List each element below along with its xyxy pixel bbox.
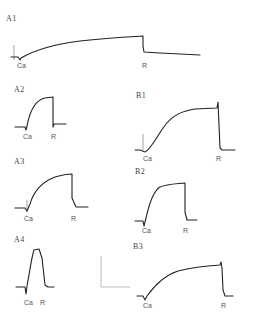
trace-a3 bbox=[15, 174, 88, 212]
marker-ca-a1: Ca bbox=[17, 62, 26, 69]
marker-r-a1: R bbox=[142, 62, 147, 69]
marker-r-a4: R bbox=[40, 299, 45, 306]
marker-ca-a2: Ca bbox=[23, 133, 32, 140]
panel-label-a1: A1 bbox=[6, 14, 17, 23]
figure: A1 Ca R A2 Ca R A3 Ca R A4 Ca R B1 Ca R … bbox=[0, 0, 257, 316]
panel-label-a4: A4 bbox=[14, 235, 25, 244]
trace-b3 bbox=[137, 262, 233, 300]
marker-r-a2: R bbox=[51, 133, 56, 140]
trace-a1 bbox=[11, 36, 200, 60]
marker-ca-b2: Ca bbox=[142, 227, 151, 234]
marker-r-b2: R bbox=[183, 227, 188, 234]
panel-label-a2: A2 bbox=[14, 85, 25, 94]
marker-r-b1: R bbox=[216, 155, 221, 162]
marker-ca-b1: Ca bbox=[143, 155, 152, 162]
panel-label-b2: B2 bbox=[135, 167, 145, 176]
marker-ca-b3: Ca bbox=[143, 302, 152, 309]
trace-a4 bbox=[16, 249, 54, 294]
marker-r-a3: R bbox=[71, 215, 76, 222]
panel-label-b1: B1 bbox=[136, 91, 146, 100]
marker-ca-a3: Ca bbox=[24, 215, 33, 222]
marker-ca-a4: Ca bbox=[24, 299, 33, 306]
scale-bar bbox=[101, 256, 130, 287]
panel-label-b3: B3 bbox=[133, 242, 143, 251]
trace-a2 bbox=[15, 97, 66, 130]
trace-b1 bbox=[135, 102, 235, 152]
trace-b2 bbox=[135, 183, 197, 226]
panel-label-a3: A3 bbox=[14, 157, 25, 166]
marker-r-b3: R bbox=[221, 302, 226, 309]
